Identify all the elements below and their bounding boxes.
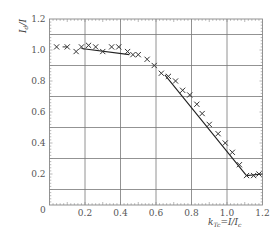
y-tick-label: 1.2 — [31, 14, 45, 24]
x-axis-label: kTc=I/Ic — [208, 217, 242, 228]
y-axis-label: Id/I — [18, 19, 29, 34]
y-tick-label: 0.4 — [31, 138, 46, 148]
x-tick-label: 1.2 — [255, 208, 269, 218]
chart: 0.20.40.60.81.01.20.20.40.60.81.01.2 0 I… — [0, 0, 279, 242]
data-point-x-marker — [145, 57, 150, 62]
data-point-x-marker — [74, 49, 79, 54]
x-tick-label: 0.4 — [113, 208, 128, 218]
data-point-x-marker — [125, 49, 130, 54]
data-point-x-marker — [173, 78, 178, 83]
data-point-x-marker — [130, 52, 135, 57]
data-point-x-marker — [216, 131, 221, 136]
data-point-x-marker — [180, 88, 185, 93]
data-point-x-marker — [230, 150, 235, 155]
data-point-x-marker — [109, 44, 114, 49]
data-point-x-marker — [194, 102, 199, 107]
y-tick-label: 0.8 — [31, 76, 46, 86]
y-tick-label: 0.6 — [31, 107, 46, 117]
fit-lines — [81, 48, 262, 175]
data-point-x-marker — [207, 122, 212, 127]
tick-labels: 0.20.40.60.81.01.20.20.40.60.81.01.2 — [31, 14, 269, 218]
origin-label: 0 — [40, 205, 46, 215]
data-point-x-marker — [93, 44, 98, 49]
data-point-x-marker — [200, 111, 205, 116]
x-tick-label: 0.2 — [78, 208, 92, 218]
x-tick-label: 0.8 — [184, 208, 199, 218]
data-point-x-marker — [159, 71, 164, 76]
data-point-x-marker — [136, 52, 141, 57]
y-tick-label: 1.0 — [31, 45, 46, 55]
x-tick-label: 0.6 — [149, 208, 164, 218]
y-tick-label: 0.2 — [31, 169, 45, 179]
data-point-x-marker — [86, 43, 91, 48]
fit-segment-high — [165, 75, 263, 176]
data-point-x-marker — [54, 44, 59, 49]
